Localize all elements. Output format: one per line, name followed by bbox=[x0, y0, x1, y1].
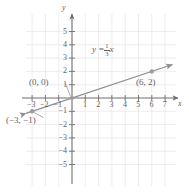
equation-lhs: y = bbox=[92, 44, 104, 54]
x-tick-label-1: 1 bbox=[83, 101, 87, 109]
graph-figure: y x −3 −2 −1 1 2 3 4 5 6 7 5 4 3 2 1 −1 … bbox=[0, 0, 189, 192]
equation-variable: x bbox=[110, 44, 114, 54]
coordinate-plane-svg bbox=[0, 0, 189, 192]
y-tick-label-5: 5 bbox=[63, 28, 67, 36]
x-tick-label-5: 5 bbox=[136, 101, 140, 109]
x-tick-label-6: 6 bbox=[150, 101, 154, 109]
x-axis-label: x bbox=[178, 100, 182, 108]
x-tick-label-4: 4 bbox=[123, 101, 127, 109]
point-label-6-2: (6, 2) bbox=[136, 78, 156, 87]
point-label-origin: (0, 0) bbox=[29, 78, 49, 87]
x-tick-label-3: 3 bbox=[110, 101, 114, 109]
point-origin bbox=[70, 96, 74, 100]
x-tick-label--3: −3 bbox=[27, 101, 36, 109]
y-axis-label: y bbox=[62, 4, 66, 12]
point-neg3-neg1 bbox=[30, 109, 34, 113]
y-tick-label--5: −5 bbox=[59, 161, 68, 169]
y-tick-label--1: −1 bbox=[59, 107, 68, 115]
y-tick-label-3: 3 bbox=[63, 54, 67, 62]
y-tick-label-4: 4 bbox=[63, 41, 67, 49]
x-tick-label-7: 7 bbox=[163, 101, 167, 109]
y-tick-label-2: 2 bbox=[63, 67, 67, 75]
y-tick-label-1: 1 bbox=[63, 81, 67, 89]
x-tick-label--2: −2 bbox=[40, 101, 49, 109]
y-tick-label--2: −2 bbox=[59, 121, 68, 129]
point-6-2 bbox=[150, 69, 154, 73]
y-tick-label--4: −4 bbox=[59, 147, 68, 155]
equation-annotation: y =13x bbox=[92, 43, 114, 57]
y-tick-label--3: −3 bbox=[59, 134, 68, 142]
x-tick-label-2: 2 bbox=[96, 101, 100, 109]
point-label-neg3-neg1: (−3, −1) bbox=[6, 116, 36, 125]
